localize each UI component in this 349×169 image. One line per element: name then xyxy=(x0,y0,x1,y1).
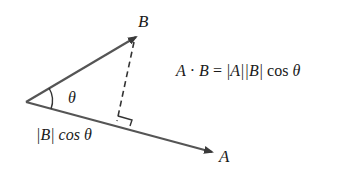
projection-label: |B| cos θ xyxy=(36,126,92,144)
formula-abs-a: |A| xyxy=(226,62,245,80)
projection-abs-b: |B| xyxy=(36,126,55,144)
formula-abs-b: |B| xyxy=(245,62,264,80)
formula-b: B xyxy=(199,62,209,79)
projection-theta: θ xyxy=(84,126,92,143)
right-angle-marker xyxy=(118,116,132,126)
vector-a-label: A xyxy=(218,147,230,166)
dot-product-formula: A · B = |A||B| cos θ xyxy=(175,62,300,80)
angle-arc xyxy=(49,88,53,109)
formula-dot: · xyxy=(190,62,195,79)
formula-cos: cos xyxy=(267,62,288,79)
projection-dashed-line xyxy=(117,42,134,121)
formula-equals: = xyxy=(213,62,222,79)
dot-product-diagram: B A θ |B| cos θ A · B = |A||B| cos θ xyxy=(0,0,349,169)
projection-cos: cos xyxy=(55,126,84,143)
theta-label: θ xyxy=(68,89,76,106)
formula-a: A xyxy=(175,62,186,79)
vector-b-label: B xyxy=(138,12,149,31)
vector-b-arrow xyxy=(26,37,136,102)
formula-theta: θ xyxy=(292,62,300,79)
